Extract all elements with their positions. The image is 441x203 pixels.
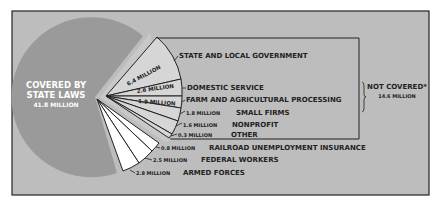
small-firms-value: 1.8 MILLION <box>186 110 220 116</box>
armed-label: ARMED FORCES <box>183 169 245 177</box>
not-covered-value: 14.6 MILLION <box>378 93 416 99</box>
railroad-value: 0.8 MILLION <box>161 145 195 151</box>
federal-value: 2.5 MILLION <box>153 157 187 163</box>
not-covered-title: NOT COVERED* <box>367 83 427 91</box>
federal-label: FEDERAL WORKERS <box>201 156 279 164</box>
small-firms-label: SMALL FIRMS <box>236 109 290 117</box>
other-label: OTHER <box>231 131 258 139</box>
covered-label-line1: COVERED BY <box>26 80 87 90</box>
other-value: 0.3 MILLION <box>178 132 212 138</box>
covered-label-line2: STATE LAWS <box>27 90 86 100</box>
armed-value: 2.8 MILLION <box>136 170 170 176</box>
pie-chart: COVERED BY STATE LAWS 41.8 MILLION 6.4 M… <box>0 0 441 203</box>
state-local-label: STATE AND LOCAL GOVERNMENT <box>179 52 308 60</box>
nonprofit-value: 1.6 MILLION <box>183 122 217 128</box>
farm-label: FARM AND AGRICULTURAL PROCESSING <box>186 96 342 104</box>
covered-value: 41.8 MILLION <box>33 101 78 108</box>
domestic-label: DOMESTIC SERVICE <box>187 84 264 92</box>
railroad-label: RAILROAD UNEMPLOYMENT INSURANCE <box>209 144 366 152</box>
nonprofit-label: NONPROFIT <box>232 121 279 129</box>
